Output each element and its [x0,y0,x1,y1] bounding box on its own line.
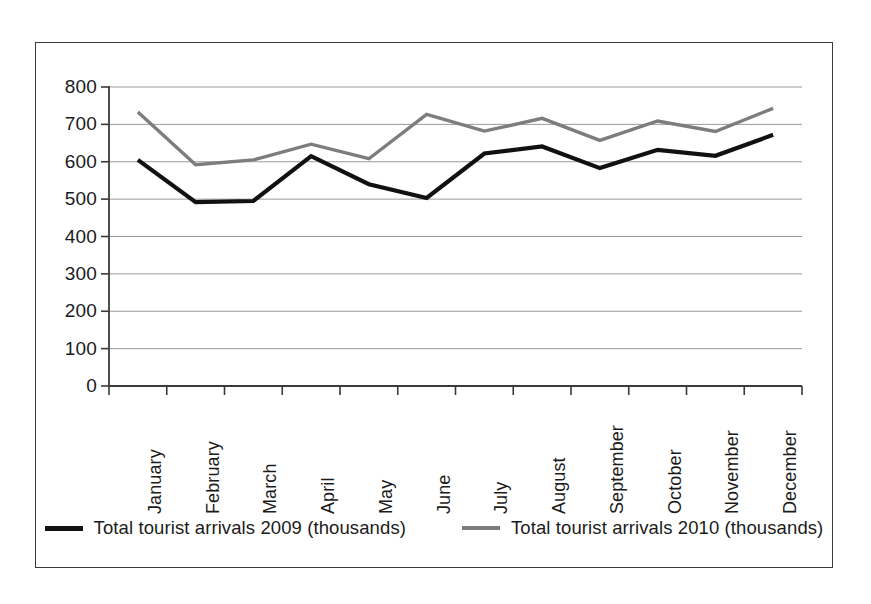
gridlines [109,87,802,386]
legend-line-swatch-icon [462,526,500,530]
data-series-layer [138,108,773,202]
chart-figure: 0100200300400500600700800 JanuaryFebruar… [35,42,833,568]
legend-label: Total tourist arrivals 2010 (thousands) [511,517,823,539]
y-tick-label-200: 200 [65,300,97,322]
legend-label: Total tourist arrivals 2009 (thousands) [94,517,406,539]
legend-item-1[interactable]: Total tourist arrivals 2009 (thousands) [45,517,406,539]
y-tick-label-500: 500 [65,188,97,210]
chart-legend: Total tourist arrivals 2009 (thousands)T… [36,517,832,539]
series-line-2 [138,108,773,164]
y-tick-label-600: 600 [65,151,97,173]
y-tick-label-400: 400 [65,226,97,248]
series-line-1 [138,135,773,202]
legend-item-2[interactable]: Total tourist arrivals 2010 (thousands) [462,517,823,539]
y-tick-label-0: 0 [86,375,97,397]
line-chart-canvas [36,43,834,569]
legend-line-swatch-icon [45,526,83,531]
y-tick-label-800: 800 [65,76,97,98]
y-tick-label-100: 100 [65,338,97,360]
y-tick-label-300: 300 [65,263,97,285]
y-axis-tick-labels: 0100200300400500600700800 [36,43,97,567]
plot-area: 0100200300400500600700800 JanuaryFebruar… [36,43,832,567]
y-tick-label-700: 700 [65,113,97,135]
